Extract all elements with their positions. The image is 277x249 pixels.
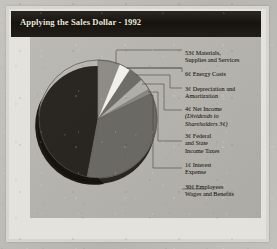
callout-energy[interactable]: 6¢ Energy Costs — [185, 70, 226, 77]
callout-depreciation-line2: Amortization — [185, 92, 235, 99]
callout-interest[interactable]: 1¢ Interest Expense — [185, 161, 211, 176]
callout-income-taxes-line2: and State — [185, 139, 219, 146]
callout-net-income[interactable]: 4¢ Net Income (Dividends to Shareholders… — [185, 105, 228, 127]
callout-interest-line2: Expense — [185, 168, 211, 175]
callout-energy-line1: 6¢ Energy Costs — [185, 70, 226, 77]
scanned-page: Applying the Sales Dollar - 1992 — [0, 0, 277, 249]
page-title: Applying the Sales Dollar - 1992 — [20, 17, 141, 27]
callout-income-taxes-line3: Income Taxes — [185, 147, 219, 154]
callout-wages-line1: 30¢ Employees — [185, 183, 234, 190]
callout-interest-line1: 1¢ Interest — [185, 161, 211, 168]
callout-depreciation[interactable]: 3¢ Depreciation and Amortization — [185, 85, 235, 100]
callout-materials-line1: 53¢ Materials, — [185, 49, 239, 56]
leader-materials — [116, 50, 182, 63]
chart-title-bar: Applying the Sales Dollar - 1992 — [11, 11, 261, 37]
leader-energy — [127, 68, 182, 72]
callout-net-income-line1: 4¢ Net Income — [185, 105, 228, 112]
callout-income-taxes-line1: 3¢ Federal — [185, 132, 219, 139]
callout-income-taxes[interactable]: 3¢ Federal and State Income Taxes — [185, 132, 219, 154]
callout-materials-line2: Supplies and Services — [185, 56, 239, 63]
callout-depreciation-line1: 3¢ Depreciation and — [185, 85, 235, 92]
callout-wages-line2: Wages and Benefits — [185, 190, 234, 197]
callout-net-income-line3: Shareholders 3¢) — [185, 120, 228, 127]
callout-net-income-line2: (Dividends to — [185, 112, 228, 119]
callout-materials[interactable]: 53¢ Materials, Supplies and Services — [185, 49, 239, 64]
callout-wages[interactable]: 30¢ Employees Wages and Benefits — [185, 183, 234, 198]
